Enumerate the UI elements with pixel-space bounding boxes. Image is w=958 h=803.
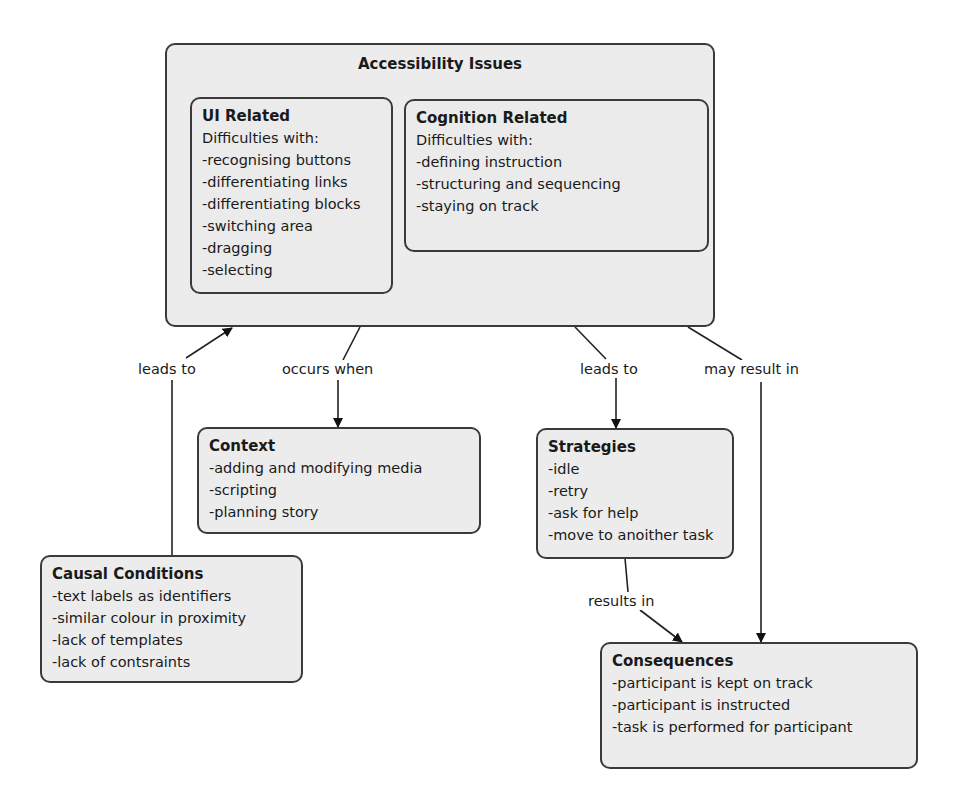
ui-related-node: UI Related Difficulties with: -recognisi… (190, 97, 393, 294)
ui-related-item: -differentiating blocks (202, 193, 381, 215)
causal-conditions-item: -similar colour in proximity (52, 607, 291, 629)
causal-conditions-node: Causal Conditions -text labels as identi… (40, 555, 303, 683)
cognition-related-item: -defining instruction (416, 151, 697, 173)
ui-related-item: -selecting (202, 259, 381, 281)
strategies-item: -ask for help (548, 502, 722, 524)
cognition-related-node: Cognition Related Difficulties with: -de… (404, 99, 709, 252)
consequences-item: -task is performed for participant (612, 716, 906, 738)
ui-related-item: -switching area (202, 215, 381, 237)
connector-strategies-to-results (625, 558, 628, 592)
strategies-item: -move to anoither task (548, 524, 722, 546)
ui-related-item: -recognising buttons (202, 149, 381, 171)
causal-conditions-item: -lack of templates (52, 629, 291, 651)
consequences-title: Consequences (612, 650, 906, 672)
strategies-title: Strategies (548, 436, 722, 458)
causal-conditions-title: Causal Conditions (52, 563, 291, 585)
strategies-node: Strategies -idle -retry -ask for help -m… (536, 428, 734, 559)
ui-related-title: UI Related (202, 105, 381, 127)
link-label-may-result-in: may result in (702, 360, 801, 378)
consequences-node: Consequences -participant is kept on tra… (600, 642, 918, 769)
consequences-item: -participant is instructed (612, 694, 906, 716)
cognition-related-item: -structuring and sequencing (416, 173, 697, 195)
causal-conditions-item: -text labels as identifiers (52, 585, 291, 607)
ui-related-intro: Difficulties with: (202, 127, 381, 149)
link-label-results-in: results in (586, 592, 656, 610)
cognition-related-intro: Difficulties with: (416, 129, 697, 151)
arrow-leads-to-issues (186, 328, 232, 358)
strategies-item: -idle (548, 458, 722, 480)
strategies-item: -retry (548, 480, 722, 502)
context-title: Context (209, 435, 469, 457)
causal-conditions-item: -lack of contsraints (52, 651, 291, 673)
connector-issues-to-may (688, 327, 742, 360)
link-label-causal-leads-to: leads to (136, 360, 198, 378)
context-node: Context -adding and modifying media -scr… (197, 427, 481, 534)
cognition-related-title: Cognition Related (416, 107, 697, 129)
link-label-strategies-leads-to: leads to (578, 360, 640, 378)
link-label-occurs-when: occurs when (280, 360, 375, 378)
cognition-related-item: -staying on track (416, 195, 697, 217)
connector-issues-to-occurs (343, 327, 360, 360)
ui-related-item: -differentiating links (202, 171, 381, 193)
arrow-results-to-consequences (640, 610, 682, 642)
context-item: -planning story (209, 501, 469, 523)
accessibility-issues-node: Accessibility Issues UI Related Difficul… (165, 43, 715, 327)
context-item: -adding and modifying media (209, 457, 469, 479)
connector-issues-to-leads (575, 327, 606, 359)
ui-related-item: -dragging (202, 237, 381, 259)
context-item: -scripting (209, 479, 469, 501)
consequences-item: -participant is kept on track (612, 672, 906, 694)
accessibility-issues-title: Accessibility Issues (167, 55, 713, 73)
